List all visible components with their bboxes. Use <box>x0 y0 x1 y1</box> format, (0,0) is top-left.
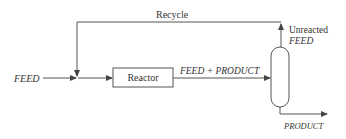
reactor-outlet-label: FEED + PRODUCT <box>179 66 260 76</box>
unreacted-label-line1: Unreacted <box>289 25 328 35</box>
feed-inlet-label: FEED <box>13 73 40 84</box>
separator-column <box>271 47 289 107</box>
reactor-label: Reactor <box>127 72 159 83</box>
process-flow-diagram: Recycle FEED Reactor FEED + PRODUCT Unre… <box>0 0 346 139</box>
reactor-node: Reactor <box>113 68 173 87</box>
unreacted-label-line2: FEED <box>288 36 313 46</box>
recycle-label: Recycle <box>156 9 189 20</box>
product-stream <box>280 107 327 114</box>
product-label: PRODUCT <box>283 121 324 131</box>
